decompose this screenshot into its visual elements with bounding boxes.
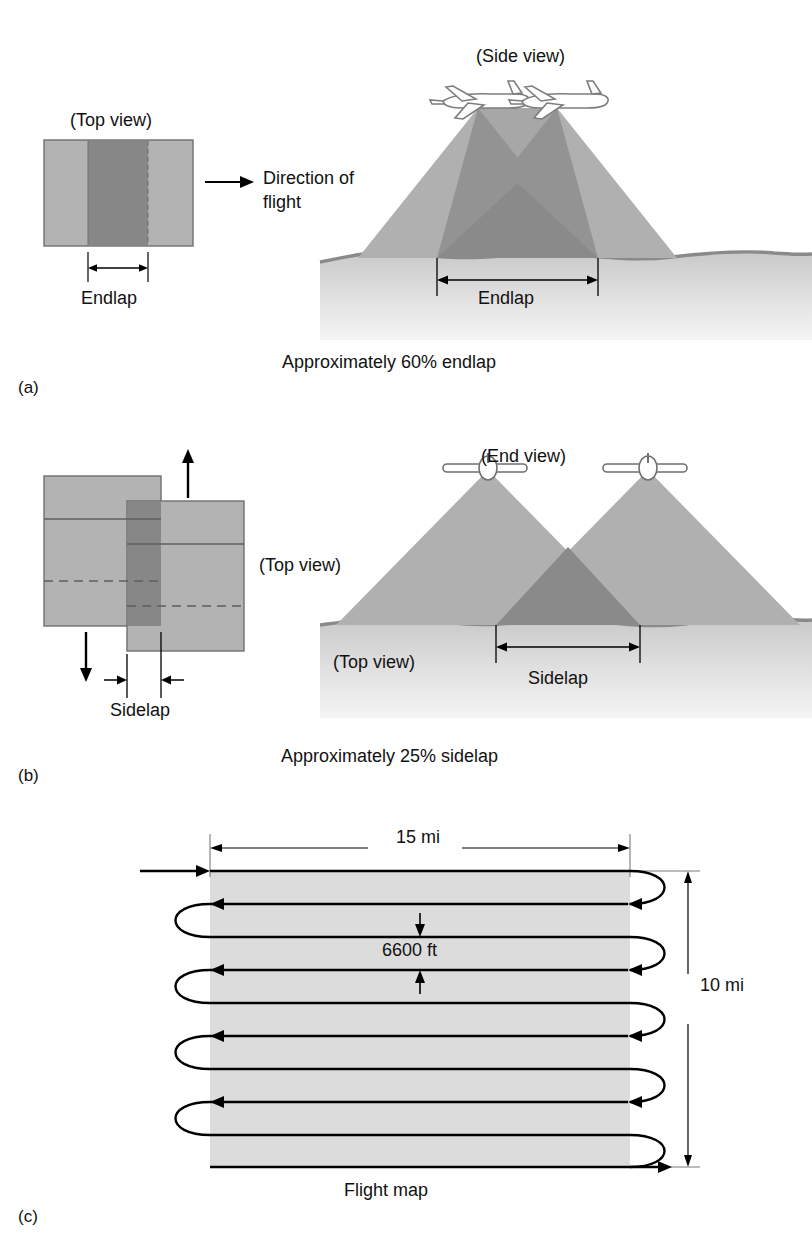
panel-b-flight-direction-up-arrow	[182, 449, 194, 498]
panel-c-letter: (c)	[18, 1207, 38, 1227]
panel-a-top-view-label: (Top view)	[70, 110, 152, 131]
panel-c-spacing-label: 6600 ft	[378, 940, 441, 961]
direction-of-flight-arrow	[205, 176, 254, 188]
height-dimension-10mi	[636, 871, 700, 1167]
panel-a-camera-cones	[358, 108, 677, 258]
panel-a-side-view-label: (Side view)	[476, 46, 565, 67]
panel-a-letter: (a)	[18, 378, 39, 398]
panel-b-sidelap-label-right: Sidelap	[528, 668, 588, 689]
figure-root: (Top view) (Side view) Direction of flig…	[0, 0, 812, 1238]
panel-c-svg	[0, 800, 812, 1238]
panel-a-caption: Approximately 60% endlap	[282, 352, 496, 373]
panel-b-ground-top-view-label: (Top view)	[333, 652, 415, 673]
panel-b-camera-cones	[336, 470, 800, 625]
direction-of-flight-label-line1: Direction of	[263, 168, 354, 189]
panel-b-letter: (b)	[18, 766, 39, 786]
panel-b-flight-direction-down-arrow	[80, 632, 92, 682]
panel-b-sidelap-label-left: Sidelap	[110, 700, 170, 721]
panel-c-caption: Flight map	[344, 1180, 428, 1201]
panel-b-top-view-label: (Top view)	[259, 555, 341, 576]
panel-b-top-view-photos	[44, 476, 244, 651]
panel-a-terrain	[320, 252, 812, 340]
panel-c-height-label: 10 mi	[700, 975, 744, 996]
panel-a-endlap-label-top: Endlap	[81, 288, 137, 309]
panel-a-endlap-dimension-top	[88, 252, 148, 282]
panel-c-graphics	[0, 800, 812, 1238]
panel-b-graphics	[0, 420, 812, 800]
direction-of-flight-label-line2: flight	[263, 192, 301, 213]
panel-b-end-view-label: (End view)	[481, 446, 566, 467]
panel-b-caption: Approximately 25% sidelap	[281, 746, 498, 767]
panel-a-top-view-photos	[44, 140, 193, 246]
panel-a-endlap-label-side: Endlap	[478, 288, 534, 309]
panel-c-width-label: 15 mi	[392, 827, 444, 848]
panel-b-svg	[0, 420, 812, 800]
aircraft-front-icon	[603, 453, 687, 480]
